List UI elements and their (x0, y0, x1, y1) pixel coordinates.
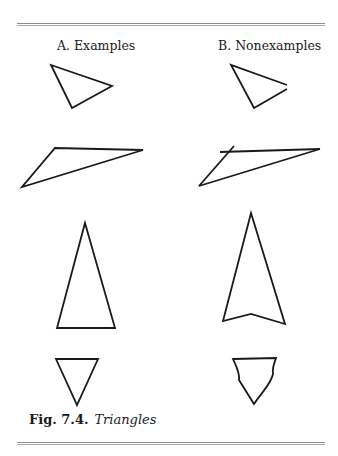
nonexample-curved-sides (233, 358, 276, 404)
nonexample-open-figure (231, 65, 287, 108)
figure-number: Fig. 7.4. (29, 412, 88, 427)
example-triangle-1 (51, 65, 112, 108)
example-triangle-4 (56, 359, 98, 405)
triangles-figure (0, 0, 338, 456)
example-triangle-2 (22, 148, 143, 187)
bottom-rule (17, 442, 325, 445)
figure-caption: Fig. 7.4.Triangles (29, 412, 156, 427)
nonexample-arrowhead (223, 213, 285, 324)
nonexample-crossing-sides (199, 146, 320, 186)
figure-title: Triangles (94, 412, 156, 427)
example-triangle-3 (57, 223, 115, 328)
